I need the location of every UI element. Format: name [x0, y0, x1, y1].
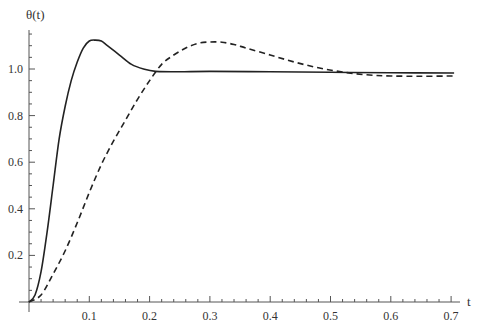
y-tick-label: 0.6: [8, 155, 23, 169]
y-tick-label: 0.4: [8, 202, 23, 216]
x-tick-label: 0.2: [142, 309, 157, 323]
x-tick-label: 0.7: [444, 309, 459, 323]
x-axis-label: t: [467, 294, 471, 309]
x-tick-label: 0.4: [263, 309, 278, 323]
y-axis-label: θ(t): [26, 7, 45, 22]
x-tick-label: 0.1: [82, 309, 97, 323]
y-tick-label: 1.0: [8, 62, 23, 76]
series-line-dashed: [29, 42, 454, 302]
y-tick-label: 0.2: [8, 248, 23, 262]
x-tick-label: 0.6: [383, 309, 398, 323]
x-tick-label: 0.3: [202, 309, 217, 323]
series-layer: [29, 40, 454, 302]
y-ticks: 0.20.40.60.81.0: [8, 34, 35, 290]
y-tick-label: 0.8: [8, 109, 23, 123]
chart: 0.10.20.30.40.50.60.7 0.20.40.60.81.0 t …: [0, 0, 483, 334]
x-tick-label: 0.5: [323, 309, 338, 323]
series-line-solid: [29, 40, 454, 302]
x-ticks: 0.10.20.30.40.50.60.7: [41, 296, 459, 323]
